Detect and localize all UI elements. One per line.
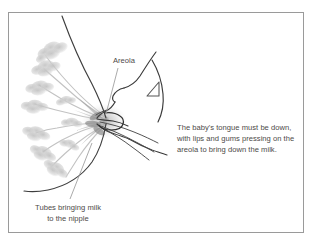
- areola-label: Areola: [113, 56, 135, 66]
- tubes-bringing-milk-caption: Tubes bringing milk to the nipple: [22, 202, 114, 224]
- instruction-paragraph: The baby's tongue must be down, with lip…: [177, 122, 305, 155]
- figure-root: Areola Tubes bringing milk to the nipple…: [0, 0, 315, 241]
